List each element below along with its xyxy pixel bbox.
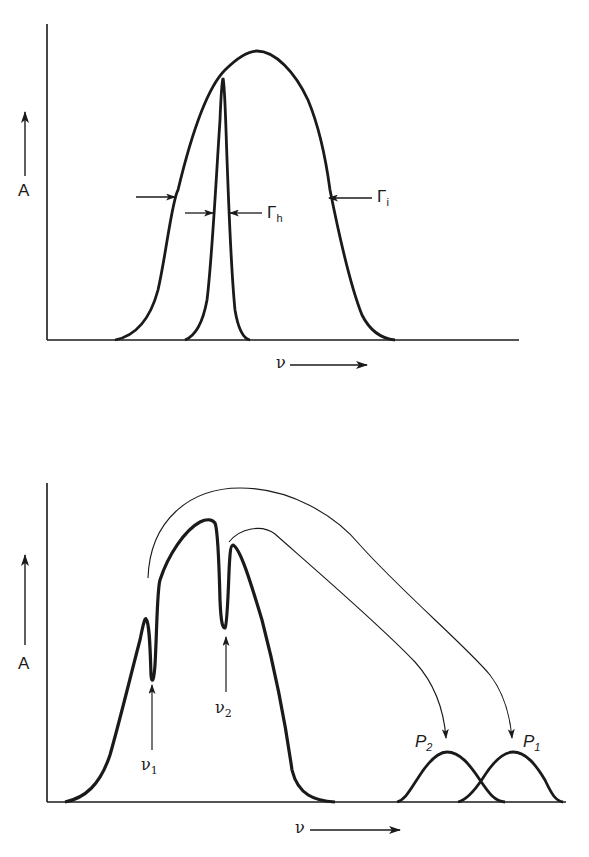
bottom-panel (25, 483, 566, 830)
gamma-i-label: Γi (377, 188, 389, 208)
p2-label: P2 (415, 733, 432, 753)
p2-peak (397, 752, 505, 802)
hole-burnt-spectrum (65, 520, 335, 802)
top-panel (25, 24, 519, 365)
inhomogeneous-curve (115, 51, 395, 340)
nu1-label: ν1 (141, 757, 158, 776)
bottom-y-axis-label: A (18, 655, 29, 672)
top-x-axis-label: ν (276, 355, 286, 371)
nu1-to-p1-arc-icon (148, 488, 512, 738)
gamma-h-label: Γh (267, 204, 283, 224)
nu2-to-p2-arc-icon (229, 528, 446, 738)
bottom-x-axis-label: ν (295, 820, 305, 836)
homogeneous-curve (185, 78, 250, 340)
p1-label: P1 (523, 733, 540, 753)
top-y-axis-label: A (18, 182, 29, 199)
nu2-label: ν2 (215, 700, 232, 719)
p1-peak (458, 752, 563, 802)
figure-canvas (0, 0, 589, 857)
